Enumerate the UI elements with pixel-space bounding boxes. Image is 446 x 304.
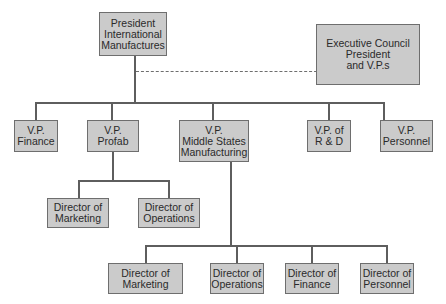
node-vp-finance: V.P. Finance [14,120,58,152]
connector-msm-marketing [145,245,147,264]
connector-profab-marketing [78,180,80,198]
node-vp-middle-states: V.P. Middle States Manufacturing [179,120,249,162]
node-profab-director-operations-label: Director of Operations [143,202,194,224]
connector-vp-msm [212,102,214,121]
node-msm-director-marketing: Director of Marketing [108,263,183,294]
connector-profab-operations [168,180,170,198]
connector-vp-rd [328,102,330,121]
node-vp-finance-label: V.P. Finance [17,125,54,147]
connector-president-down [134,55,136,103]
connector-msm-bus [145,245,387,247]
node-profab-director-operations: Director of Operations [138,198,200,228]
node-msm-director-marketing-label: Director of Marketing [121,268,169,290]
connector-msm-finance [311,245,313,264]
connector-vp-finance [35,102,37,121]
node-msm-director-finance: Director of Finance [285,263,339,294]
node-president-label: President International Manufactures [101,18,165,51]
node-profab-director-marketing-label: Director of Marketing [54,202,102,224]
node-vp-rd-label: V.P. of R & D [314,125,343,147]
connector-msm-down [230,160,232,246]
connector-profab-down [112,150,114,180]
node-vp-profab-label: V.P. Profab [98,125,129,147]
node-vp-personnel: V.P. Personnel [380,120,433,152]
node-profab-director-marketing: Director of Marketing [47,198,109,228]
node-executive-council: Executive Council President and V.P.s [316,24,420,85]
node-msm-director-operations: Director of Operations [210,263,264,294]
connector-vp-personnel [383,102,385,121]
node-msm-director-personnel: Director of Personnel [360,263,414,294]
node-president: President International Manufactures [99,12,167,56]
dashed-connector-exec-council [136,71,322,72]
node-msm-director-personnel-label: Director of Personnel [363,268,411,290]
node-msm-director-operations-label: Director of Operations [211,268,262,290]
org-chart: President International Manufactures Exe… [0,0,446,304]
node-vp-personnel-label: V.P. Personnel [383,125,430,147]
node-msm-director-finance-label: Director of Finance [288,268,336,290]
connector-vp-profab [111,102,113,121]
connector-vp-bus [35,102,384,104]
node-vp-middle-states-label: V.P. Middle States Manufacturing [181,125,248,158]
connector-msm-operations [236,245,238,264]
connector-profab-bus [78,180,169,182]
node-vp-rd: V.P. of R & D [307,120,351,152]
node-executive-council-label: Executive Council President and V.P.s [326,38,409,71]
node-vp-profab: V.P. Profab [87,120,139,152]
connector-msm-personnel [386,245,388,264]
